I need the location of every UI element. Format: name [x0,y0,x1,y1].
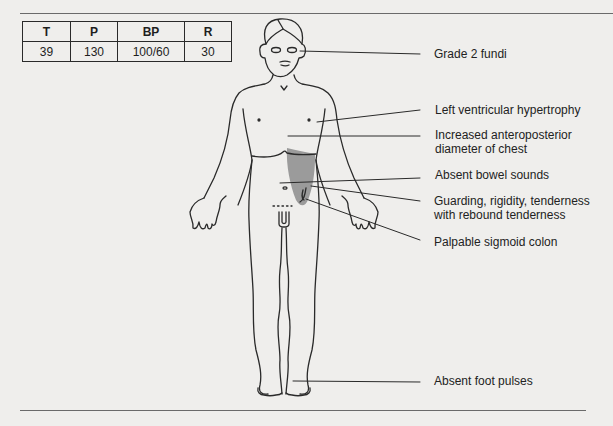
right-nipple [308,119,310,121]
right-foot [286,388,310,396]
label-absent-bowel-sounds: Absent bowel sounds [435,168,549,182]
label-absent-foot-pulses: Absent foot pulses [434,374,533,388]
right-leg-inner [286,228,290,394]
umbilicus [283,187,287,189]
label-guarding-line1: Guarding, rigidity, tenderness [434,194,590,208]
tender-region [287,148,315,205]
sternal-notch [281,86,287,90]
right-eye [288,48,297,53]
label-left-ventricular-hypertrophy: Left ventricular hypertrophy [435,103,580,117]
label-palpable-sigmoid-colon: Palpable sigmoid colon [434,235,557,249]
label-grade-2-fundi: Grade 2 fundi [434,47,507,61]
left-hand [190,196,226,229]
label-chest-line1: Increased anteroposterior [435,128,572,142]
left-nipple [258,119,260,121]
right-hand [342,196,378,229]
genitals [279,212,289,227]
left-leg-inner [278,228,282,394]
label-guarding-line2: with rebound tenderness [434,208,565,222]
left-eye [272,48,281,53]
left-foot [258,388,282,396]
leader-lvh [317,110,420,122]
hair-line [266,29,302,44]
torso-left-outline [204,75,273,198]
mouth [280,61,290,66]
leader-foot [293,381,420,382]
left-leg-outer [249,160,268,394]
hair-part [278,20,283,29]
leader-sigmoid [306,199,420,240]
label-chest-line2: diameter of chest [435,142,527,156]
leader-lines [280,51,420,382]
leader-fundi [300,51,420,54]
